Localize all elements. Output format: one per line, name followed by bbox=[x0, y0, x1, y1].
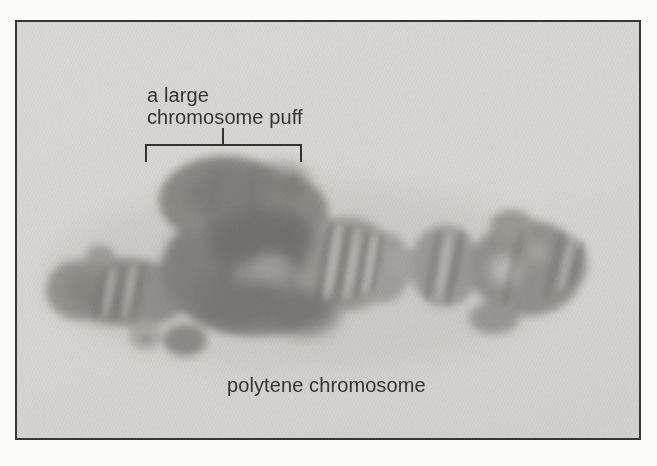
figure-frame: a large chromosome puff polytene chromos… bbox=[15, 20, 641, 440]
page: a large chromosome puff polytene chromos… bbox=[0, 0, 657, 466]
micrograph-photo: a large chromosome puff polytene chromos… bbox=[17, 22, 639, 438]
puff-bracket-path bbox=[146, 128, 301, 162]
puff-label: a large chromosome puff bbox=[147, 84, 303, 128]
caption: polytene chromosome bbox=[227, 374, 426, 397]
puff-bracket bbox=[145, 126, 305, 166]
